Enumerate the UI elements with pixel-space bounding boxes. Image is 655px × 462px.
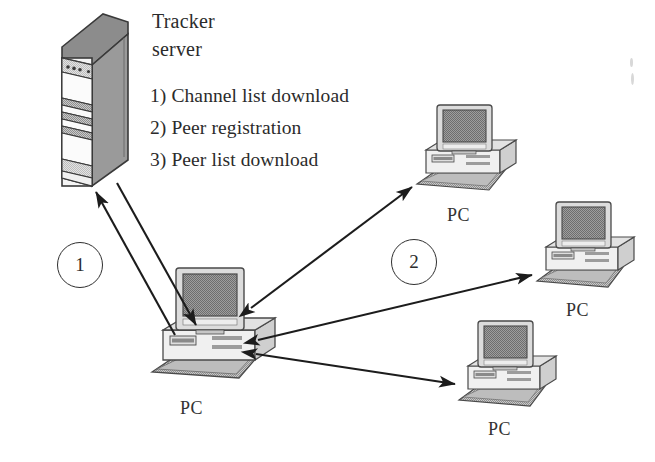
server-label-line2: server <box>152 38 202 61</box>
diagram-canvas: Tracker server 1) Channel list download … <box>0 0 655 462</box>
pc-bottom-right-label: PC <box>488 419 511 440</box>
step-3-text: 3) Peer list download <box>150 149 318 171</box>
step-1-text: 1) Channel list download <box>150 85 349 107</box>
marker-one: 1 <box>57 242 103 288</box>
marker-two: 2 <box>391 239 437 285</box>
scan-speck <box>630 58 633 67</box>
server-label-line1: Tracker <box>152 10 215 33</box>
marker-two-value: 2 <box>409 251 419 273</box>
arrow-server-to-center <box>117 183 196 325</box>
pc-center-icon <box>152 268 275 378</box>
arrow-center-to-server <box>96 192 175 335</box>
arrow-center-to-top-right <box>251 187 412 308</box>
pc-bottom-right-icon <box>459 321 556 406</box>
diagram-graphics <box>0 0 655 462</box>
marker-one-value: 1 <box>75 254 85 276</box>
pc-middle-right-icon <box>537 202 634 287</box>
step-2-text: 2) Peer registration <box>150 117 301 139</box>
pc-center-label: PC <box>180 398 203 419</box>
pc-middle-right-label: PC <box>566 300 589 321</box>
scan-speck-2 <box>631 73 634 85</box>
pc-top-right-icon <box>417 105 516 190</box>
arrow-center-to-bottom-right <box>256 354 455 384</box>
pc-top-right-label: PC <box>447 205 470 226</box>
tower-server-icon <box>62 14 128 186</box>
